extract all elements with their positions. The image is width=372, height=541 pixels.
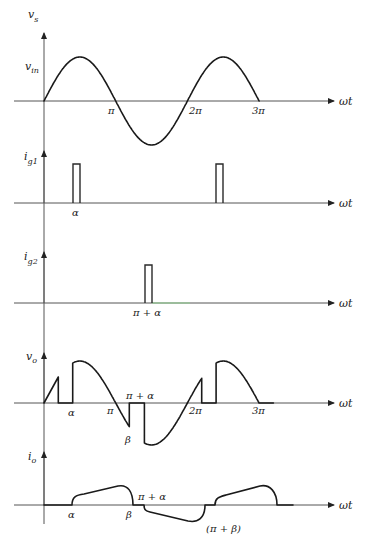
io-x-axis-label: ωt [339,499,353,512]
ig2-tick-pi-plus-alpha: π + α [132,307,161,318]
vo-tick-2pi: 2π [188,405,202,416]
ig1-y-label: ig1 [24,150,38,166]
vs-y-label: vs [28,8,38,24]
panel-vs: ωt vs vin π 2π 3π [14,8,353,145]
vs-x-axis-label: ωt [339,95,353,108]
ig1-x-axis-label: ωt [339,197,353,210]
io-output-current-trace [44,486,293,522]
io-tick-pi-plus-beta: (π + β) [206,523,241,534]
io-tick-pi-plus-alpha: π + α [137,491,166,502]
panel-vo: ωt vo α π π + α β 2π 3π [14,350,353,445]
vo-x-axis-label: ωt [339,397,353,410]
io-tick-alpha: α [68,509,75,520]
waveform-diagram: ωt vs vin π 2π 3π ωt ig1 α ωt ig2 π + α … [0,0,372,541]
vo-tick-alpha: α [68,407,75,418]
ig2-y-label: ig2 [24,250,38,266]
vs-tick-pi: π [107,105,115,116]
diagram-canvas: ωt vs vin π 2π 3π ωt ig1 α ωt ig2 π + α … [0,0,372,541]
vo-tick-pi-plus-alpha: π + α [125,390,154,401]
ig1-tick-alpha: α [72,207,79,218]
io-tick-beta: β [125,509,132,520]
vs-tick-3pi: 3π [252,105,265,116]
vo-tick-pi: π [106,405,114,416]
panel-ig1: ωt ig1 α [14,150,353,218]
vo-tick-beta: β [124,434,131,445]
vo-y-label: vo [26,350,37,365]
panel-io: ωt io α β π + α (π + β) [14,450,353,534]
io-y-label: io [28,450,37,465]
vo-tick-3pi: 3π [252,405,265,416]
vin-label: vin [25,60,39,75]
ig1-pulse-2 [216,164,223,203]
ig1-pulse-1 [73,164,80,203]
ig2-x-axis-label: ωt [339,297,353,310]
ig2-pulse [145,265,152,303]
panel-ig2: ωt ig2 π + α [14,250,353,318]
vs-tick-2pi: 2π [188,105,202,116]
